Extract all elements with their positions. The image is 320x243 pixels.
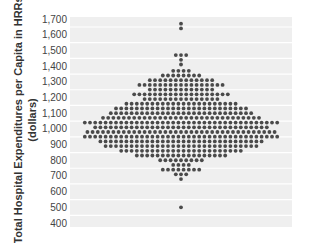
data-dot bbox=[242, 130, 246, 134]
y-tick-label: 1,200 bbox=[42, 92, 67, 103]
data-dot bbox=[166, 135, 170, 139]
data-dot bbox=[145, 125, 149, 129]
data-dot bbox=[265, 125, 269, 129]
data-dot bbox=[275, 135, 279, 139]
data-dot bbox=[153, 130, 157, 134]
data-dot bbox=[231, 130, 235, 134]
data-dot bbox=[205, 88, 209, 92]
data-dot bbox=[270, 121, 274, 125]
data-dot bbox=[125, 140, 129, 144]
data-dot bbox=[171, 125, 175, 129]
y-tick-label: 400 bbox=[50, 218, 67, 229]
data-dot bbox=[164, 158, 168, 162]
data-dot bbox=[114, 111, 118, 115]
data-dot bbox=[161, 102, 165, 106]
data-dot bbox=[192, 102, 196, 106]
data-dot bbox=[99, 125, 103, 129]
data-dot bbox=[184, 53, 188, 57]
data-dot bbox=[158, 78, 162, 82]
data-dot bbox=[164, 97, 168, 101]
data-dot bbox=[164, 78, 168, 82]
data-dot bbox=[114, 140, 118, 144]
data-dot bbox=[112, 130, 116, 134]
data-dot bbox=[140, 125, 144, 129]
data-dot bbox=[231, 116, 235, 120]
data-dot bbox=[130, 135, 134, 139]
data-dot bbox=[218, 149, 222, 153]
data-dot bbox=[213, 144, 217, 148]
data-dot bbox=[190, 83, 194, 87]
data-dot bbox=[169, 88, 173, 92]
data-dot bbox=[171, 74, 175, 78]
data-dot bbox=[275, 121, 279, 125]
data-dot bbox=[239, 149, 243, 153]
data-dot bbox=[166, 149, 170, 153]
data-dot bbox=[151, 140, 155, 144]
data-dot bbox=[203, 121, 207, 125]
data-dot bbox=[208, 111, 212, 115]
data-dot bbox=[249, 111, 253, 115]
data-dot bbox=[200, 158, 204, 162]
data-dot bbox=[125, 149, 129, 153]
data-dot bbox=[218, 125, 222, 129]
data-dot bbox=[179, 63, 183, 67]
data-dot bbox=[234, 111, 238, 115]
data-dot bbox=[125, 121, 129, 125]
data-dot bbox=[205, 92, 209, 96]
data-dot bbox=[114, 144, 118, 148]
data-dot bbox=[249, 140, 253, 144]
data-dot bbox=[234, 144, 238, 148]
data-dot bbox=[221, 116, 225, 120]
data-dot bbox=[184, 78, 188, 82]
data-dot bbox=[249, 144, 253, 148]
data-dot bbox=[203, 102, 207, 106]
data-dot bbox=[161, 154, 165, 158]
data-dot bbox=[106, 116, 110, 120]
data-dot bbox=[166, 121, 170, 125]
data-dot bbox=[135, 154, 139, 158]
data-dot bbox=[135, 125, 139, 129]
data-dot bbox=[260, 121, 264, 125]
data-dot bbox=[166, 154, 170, 158]
data-dot bbox=[166, 125, 170, 129]
data-dot bbox=[210, 97, 214, 101]
data-dot bbox=[195, 97, 199, 101]
data-dot bbox=[216, 97, 220, 101]
data-dot bbox=[203, 154, 207, 158]
data-dot bbox=[101, 130, 105, 134]
data-dot bbox=[187, 121, 191, 125]
data-dot bbox=[145, 111, 149, 115]
data-dot bbox=[187, 107, 191, 111]
data-dot bbox=[106, 130, 110, 134]
data-dot bbox=[190, 88, 194, 92]
data-dot bbox=[216, 83, 220, 87]
y-tick-label: 1,600 bbox=[42, 29, 67, 40]
data-dot bbox=[177, 69, 181, 73]
data-dot bbox=[156, 121, 160, 125]
data-dot bbox=[229, 135, 233, 139]
y-tick-label: 1,700 bbox=[42, 14, 67, 25]
data-dot bbox=[153, 92, 157, 96]
data-dot bbox=[158, 88, 162, 92]
data-dot bbox=[192, 140, 196, 144]
data-dot bbox=[210, 130, 214, 134]
data-dot bbox=[244, 135, 248, 139]
data-dot bbox=[109, 140, 113, 144]
data-dot bbox=[140, 121, 144, 125]
data-dot bbox=[117, 116, 121, 120]
data-dot bbox=[125, 144, 129, 148]
data-dot bbox=[197, 121, 201, 125]
data-dot bbox=[171, 154, 175, 158]
data-dot bbox=[99, 135, 103, 139]
data-dot bbox=[234, 149, 238, 153]
data-dot bbox=[177, 107, 181, 111]
data-dot bbox=[109, 135, 113, 139]
data-dot bbox=[223, 149, 227, 153]
data-dot bbox=[197, 111, 201, 115]
data-dot bbox=[177, 74, 181, 78]
data-dot bbox=[171, 135, 175, 139]
data-dot bbox=[156, 140, 160, 144]
data-dot bbox=[187, 125, 191, 129]
data-dot bbox=[223, 140, 227, 144]
data-dot bbox=[208, 102, 212, 106]
